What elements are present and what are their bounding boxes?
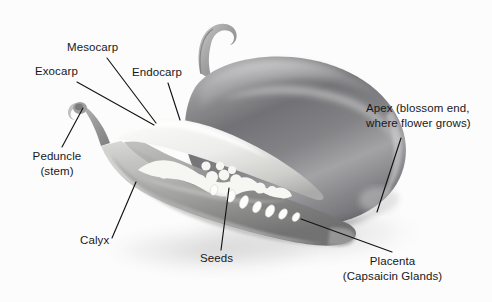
label-endocarp-text: Endocarp bbox=[132, 66, 182, 78]
label-apex-subtext: where flower grows) bbox=[366, 116, 471, 131]
label-endocarp: Endocarp bbox=[132, 65, 182, 80]
label-apex: Apex (blossom end, where flower grows) bbox=[366, 101, 471, 130]
label-calyx: Calyx bbox=[80, 233, 109, 248]
label-placenta-text: Placenta bbox=[370, 255, 416, 267]
label-placenta-subtext: (Capsaicin Glands) bbox=[320, 269, 465, 284]
label-placenta: Placenta (Capsaicin Glands) bbox=[320, 254, 465, 283]
label-peduncle-subtext: (stem) bbox=[17, 164, 97, 179]
label-mesocarp: Mesocarp bbox=[67, 40, 118, 55]
label-apex-text: Apex (blossom end, bbox=[366, 102, 469, 114]
label-seeds-text: Seeds bbox=[200, 252, 233, 264]
label-exocarp-text: Exocarp bbox=[35, 65, 78, 77]
label-exocarp: Exocarp bbox=[35, 64, 78, 79]
pepper-anatomy-figure: Mesocarp Exocarp Endocarp Peduncle (stem… bbox=[0, 0, 492, 302]
label-peduncle-text: Peduncle bbox=[33, 150, 82, 162]
label-calyx-text: Calyx bbox=[80, 234, 109, 246]
label-mesocarp-text: Mesocarp bbox=[67, 41, 118, 53]
label-peduncle: Peduncle (stem) bbox=[17, 149, 97, 178]
label-seeds: Seeds bbox=[200, 251, 233, 266]
